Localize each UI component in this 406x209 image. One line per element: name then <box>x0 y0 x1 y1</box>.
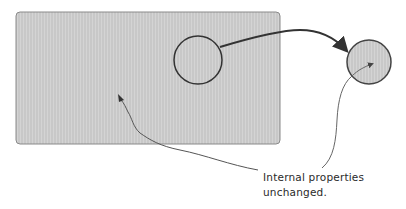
annotation-label: Internal properties unchanged. <box>263 170 364 200</box>
annotation-line-2: unchanged. <box>263 185 364 200</box>
object-region <box>16 12 280 144</box>
target-circle <box>347 40 391 84</box>
annotation-line-1: Internal properties <box>263 170 364 185</box>
